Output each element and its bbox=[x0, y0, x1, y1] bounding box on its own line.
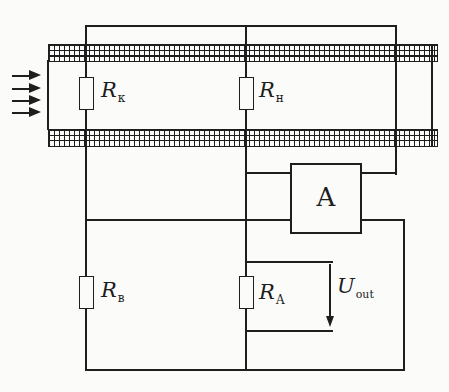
resistor-rh bbox=[239, 77, 254, 110]
wire-top-bus bbox=[85, 25, 397, 27]
uout-arrow-head-icon bbox=[326, 316, 334, 327]
label-rk: Rк bbox=[101, 80, 125, 104]
label-ra: RА bbox=[259, 282, 285, 306]
resistor-rk bbox=[79, 77, 94, 110]
duct-left-edge bbox=[47, 60, 49, 130]
flow-arrow-icon bbox=[12, 107, 42, 118]
wire-right-return bbox=[403, 219, 405, 371]
uout-arrow-shaft bbox=[329, 264, 331, 317]
flow-arrow-head bbox=[29, 70, 41, 80]
wire-bottom-rail bbox=[85, 369, 405, 371]
amplifier-label: A bbox=[317, 182, 336, 212]
wire-uout-top-tap bbox=[246, 261, 333, 263]
wire-uout-bottom-tap bbox=[246, 330, 333, 332]
label-rh: Rн bbox=[259, 80, 284, 104]
flow-arrow-head bbox=[29, 83, 41, 93]
flow-arrow-icon bbox=[12, 95, 42, 106]
circuit-diagram: A Rк Rн Rв RА Uout bbox=[0, 0, 449, 392]
wire-bridge-to-amp bbox=[85, 219, 291, 221]
wire-amp-input-right bbox=[360, 172, 397, 174]
flow-arrow-icon bbox=[12, 83, 42, 94]
resistor-rb bbox=[79, 276, 94, 309]
label-rb: Rв bbox=[101, 280, 125, 304]
flow-arrow-icon bbox=[12, 70, 42, 81]
duct-wall-bottom-hatch bbox=[48, 129, 438, 147]
wire-right-drop bbox=[395, 25, 397, 175]
duct-right-edge bbox=[431, 44, 433, 147]
wire-amp-input-left bbox=[246, 172, 292, 174]
wire-amp-output bbox=[360, 219, 405, 221]
flow-arrow-head bbox=[29, 107, 41, 117]
flow-arrow-head bbox=[29, 95, 41, 105]
label-uout: Uout bbox=[337, 276, 374, 300]
resistor-ra bbox=[239, 276, 254, 309]
duct-wall-top-hatch bbox=[48, 44, 438, 62]
amplifier-box: A bbox=[290, 163, 362, 234]
